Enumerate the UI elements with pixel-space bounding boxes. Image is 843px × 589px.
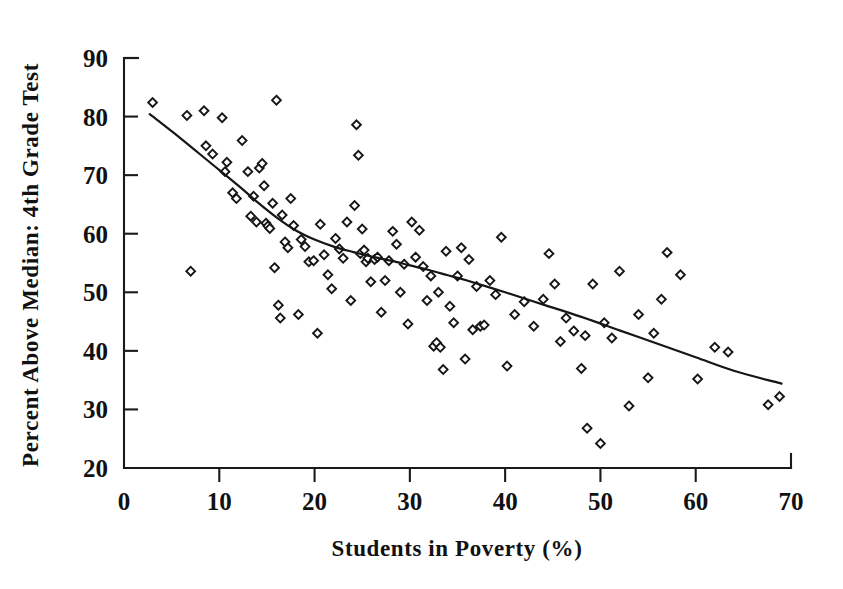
data-point [510,310,519,319]
data-point [596,439,605,448]
data-point [354,151,363,160]
data-point [434,288,443,297]
data-point [411,253,420,262]
data-point [577,364,586,373]
data-point [272,96,281,105]
data-point [268,199,277,208]
data-points-group [148,96,784,448]
data-point [260,181,269,190]
data-point [366,277,375,286]
data-point [445,302,454,311]
data-point [313,329,322,338]
data-point [649,329,658,338]
data-point [461,355,470,364]
ticks-group [124,58,696,482]
y-tick-label: 20 [83,455,108,482]
data-point [238,136,247,145]
data-point [316,220,325,229]
data-point [286,194,295,203]
data-point [388,227,397,236]
data-point [625,402,634,411]
data-point [693,375,702,384]
y-tick-label: 50 [83,279,108,306]
data-point [423,296,432,305]
data-point [676,270,685,279]
x-tick-label: 0 [118,488,131,515]
data-point [775,392,784,401]
data-point [358,225,367,234]
data-point [550,280,559,289]
data-point [439,365,448,374]
data-point [331,234,340,243]
data-point [426,271,435,280]
data-point [644,373,653,382]
data-point [449,318,458,327]
data-point [276,314,285,323]
data-point [148,98,157,107]
x-tick-label: 50 [588,488,613,515]
data-point [200,106,209,115]
data-point [415,226,424,235]
y-tick-label: 40 [83,338,108,365]
data-point [320,250,329,259]
data-point [442,247,451,256]
data-point [529,322,538,331]
data-point [223,158,232,167]
x-tick-label: 70 [779,488,804,515]
data-point [556,337,565,346]
x-tick-label: 40 [493,488,518,515]
data-point [465,255,474,264]
data-point [208,150,217,159]
data-point [764,400,773,409]
data-point [182,111,191,120]
data-point [392,240,401,249]
data-point [607,334,616,343]
data-point [381,276,390,285]
data-point [343,218,352,227]
data-point [581,331,590,340]
data-point [270,263,279,272]
scatter-plot: 2030405060708090010203040506070 Students… [0,0,843,589]
y-axis-title: Percent Above Median: 4th Grade Test [18,63,43,467]
chart-page: 2030405060708090010203040506070 Students… [0,0,843,589]
data-point [634,310,643,319]
data-point [588,280,597,289]
data-point [724,348,733,357]
data-point [503,362,512,371]
data-point [324,270,333,279]
data-point [545,249,554,258]
data-point [569,327,578,336]
data-point [186,267,195,276]
y-tick-label: 60 [83,221,108,248]
data-point [377,308,386,317]
data-point [274,301,283,310]
y-tick-label: 90 [83,45,108,72]
data-point [615,267,624,276]
data-point [339,254,348,263]
data-point [657,295,666,304]
y-tick-label: 30 [83,396,108,423]
data-point [663,248,672,257]
x-tick-label: 20 [302,488,327,515]
data-point [218,113,227,122]
data-point [327,284,336,293]
data-point [539,295,548,304]
data-point [497,233,506,242]
x-axis-title: Students in Poverty (%) [332,536,583,561]
data-point [583,424,592,433]
data-point [350,201,359,210]
data-point [202,141,211,150]
data-point [352,120,361,129]
data-point [396,288,405,297]
data-point [485,276,494,285]
data-point [562,314,571,323]
data-point [407,218,416,227]
y-tick-label: 80 [83,104,108,131]
data-point [294,310,303,319]
data-point [710,343,719,352]
x-tick-label: 60 [683,488,708,515]
x-tick-label: 10 [207,488,232,515]
data-point [404,320,413,329]
data-point [243,167,252,176]
data-point [457,243,466,252]
